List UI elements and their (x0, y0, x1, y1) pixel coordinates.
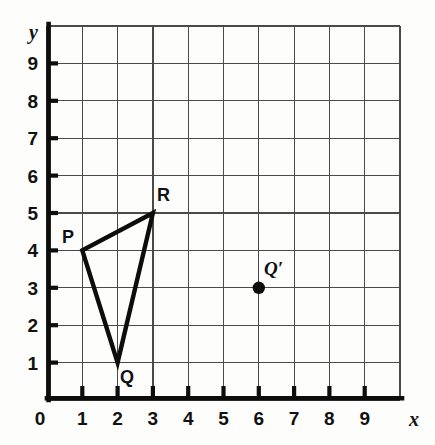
coordinate-plane-figure: 9 8 7 6 5 4 3 2 1 0 1 2 3 4 5 6 7 8 9 y … (0, 0, 435, 445)
y-tick-label-9: 9 (27, 54, 38, 73)
x-tick-label-2: 2 (112, 409, 123, 428)
point-q-prime-marker (253, 282, 265, 294)
vertex-label-q: Q (120, 368, 134, 386)
y-tick-label-3: 3 (27, 278, 38, 297)
x-axis-title: x (409, 409, 419, 429)
grid-and-shape-graphic (0, 0, 435, 445)
y-tick-label-6: 6 (27, 166, 38, 185)
vertex-label-p: P (62, 228, 74, 246)
y-tick-label-4: 4 (27, 241, 38, 260)
x-tick-label-5: 5 (218, 409, 229, 428)
x-axis-ticks (82, 386, 364, 396)
x-tick-label-8: 8 (324, 409, 335, 428)
y-tick-label-1: 1 (27, 353, 38, 372)
x-tick-label-4: 4 (183, 409, 194, 428)
vertex-label-r: R (157, 186, 170, 204)
x-tick-label-1: 1 (77, 409, 88, 428)
y-tick-label-7: 7 (27, 129, 38, 148)
grid-lines (47, 26, 400, 400)
axis-lines (47, 24, 402, 400)
y-tick-label-5: 5 (27, 204, 38, 223)
x-tick-label-3: 3 (148, 409, 159, 428)
origin-tick-label-0: 0 (35, 409, 46, 428)
point-label-q-prime: Q′ (264, 259, 283, 278)
y-tick-label-8: 8 (27, 91, 38, 110)
x-tick-label-9: 9 (359, 409, 370, 428)
y-tick-label-2: 2 (27, 316, 38, 335)
x-tick-label-6: 6 (254, 409, 265, 428)
y-axis-title: y (29, 22, 38, 42)
x-tick-label-7: 7 (289, 409, 300, 428)
